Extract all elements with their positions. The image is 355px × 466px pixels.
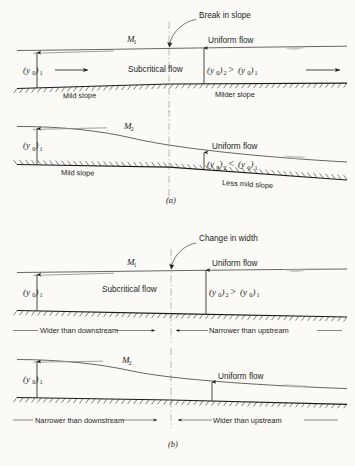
uniform-flow-label: Uniform flow (208, 36, 254, 45)
svg-text:(y: (y (23, 287, 30, 297)
svg-text:1: 1 (257, 291, 260, 298)
svg-text:1: 1 (133, 261, 136, 268)
caption-b: (b) (168, 439, 178, 449)
uniform-flow-label: Uniform flow (218, 372, 264, 381)
svg-text:>: > (231, 287, 236, 297)
svg-text:): ) (249, 159, 253, 169)
uniform-flow-label: Uniform flow (212, 142, 258, 151)
svg-text:2: 2 (130, 125, 133, 132)
svg-text:(y: (y (207, 65, 214, 75)
svg-text:1: 1 (255, 69, 258, 76)
svg-text:2: 2 (224, 164, 227, 171)
svg-text:>: > (229, 65, 234, 75)
svg-text:(y: (y (23, 140, 30, 150)
svg-text:(y: (y (238, 159, 245, 169)
svg-text:2: 2 (226, 291, 229, 298)
svg-text:(y: (y (209, 287, 216, 297)
svg-text:): ) (34, 374, 38, 384)
svg-text:(y: (y (207, 159, 214, 169)
svg-text:(y: (y (240, 287, 247, 297)
svg-text:(y: (y (23, 374, 30, 384)
svg-text:1: 1 (40, 291, 43, 298)
break-in-slope-label: Break in slope (199, 11, 251, 20)
subcritical-flow-label: Subcritical flow (128, 65, 183, 74)
width-label-right: Narrower than upstream (209, 326, 289, 335)
svg-text:<: < (229, 159, 234, 169)
bed-label-mild-slope: Mild slope (63, 91, 97, 101)
svg-text:2: 2 (224, 69, 227, 76)
svg-text:1: 1 (133, 38, 136, 45)
svg-text:): ) (218, 159, 222, 169)
svg-text:1: 1 (40, 69, 43, 76)
width-label-left: Narrower than downstream (35, 416, 124, 425)
hydraulics-figure: Break in slope Uniform flow Subcritical … (0, 0, 355, 466)
width-label-left: Wider than downstream (40, 326, 118, 335)
svg-text:): ) (34, 140, 38, 150)
svg-text:(y: (y (238, 65, 245, 75)
svg-text:2: 2 (128, 359, 131, 366)
bed-label-milder-slope: Milder slope (215, 90, 255, 99)
bed-label-mild-slope: Mild slope (61, 168, 94, 178)
svg-text:): ) (34, 65, 38, 75)
svg-text:): ) (251, 287, 255, 297)
subcritical-flow-label: Subcritical flow (102, 285, 157, 294)
svg-text:1: 1 (40, 378, 43, 385)
svg-text:): ) (218, 65, 222, 75)
width-label-right: Wider than upstream (213, 416, 282, 425)
svg-text:): ) (220, 287, 224, 297)
svg-text:(y: (y (23, 65, 30, 75)
uniform-flow-label: Uniform flow (212, 259, 258, 268)
change-in-width-label: Change in width (199, 234, 258, 243)
svg-text:1: 1 (40, 145, 43, 152)
figure-root: Break in slope Uniform flow Subcritical … (0, 0, 355, 466)
svg-text:1: 1 (255, 164, 258, 171)
caption-a: (a) (166, 195, 176, 205)
svg-text:): ) (249, 65, 253, 75)
svg-text:): ) (34, 287, 38, 297)
